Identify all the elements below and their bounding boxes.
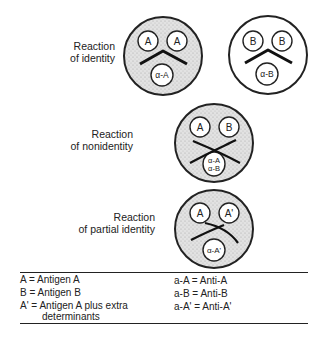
svg-text:α-A': α-A' (207, 246, 222, 255)
plate-identity-b: B B α-B (229, 16, 307, 94)
svg-text:α-B: α-B (260, 69, 274, 79)
svg-text:B: B (279, 36, 286, 47)
svg-text:A': A' (225, 208, 234, 219)
svg-text:α-A: α-A (155, 70, 169, 80)
svg-text:A: A (174, 36, 181, 47)
legend-left-2: B = Antigen B (20, 287, 81, 299)
svg-text:A: A (145, 36, 152, 47)
plate-identity-a: A A α-A (124, 17, 202, 95)
svg-text:α-B: α-B (208, 164, 220, 173)
plate-nonidentity: A B α-A α-B (175, 104, 253, 182)
legend-right-2: a-B = Anti-B (174, 288, 228, 300)
legend-right-1: a-A = Anti-A (174, 275, 227, 287)
legend-right-3: a-A' = Anti-A' (174, 301, 231, 313)
plate-partial-identity: A A' α-A' (175, 190, 253, 268)
svg-text:A: A (197, 208, 204, 219)
legend-top-rule (20, 272, 308, 273)
legend-left-1: A = Antigen A (20, 274, 80, 286)
svg-text:B: B (250, 36, 257, 47)
svg-text:A: A (197, 122, 204, 133)
legend-left-4: determinants (42, 311, 100, 323)
svg-text:B: B (226, 122, 233, 133)
legend-bottom-rule (20, 323, 308, 324)
